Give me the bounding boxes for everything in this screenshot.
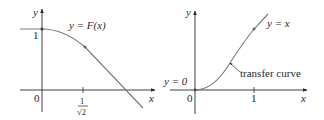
right-point-high <box>253 28 256 31</box>
transfer-curve-pointer <box>230 63 240 72</box>
left-x-tick-fraction: 1 √2 <box>77 96 88 117</box>
right-x-axis-label: x <box>300 92 306 104</box>
right-x-tick-label: 1 <box>251 92 257 104</box>
left-x-axis-label: x <box>148 92 154 104</box>
right-graph: y x 0 1 y = 0 y = x transfer curve <box>163 6 307 114</box>
left-y-tick-label: 1 <box>33 29 39 41</box>
right-y-axis-label: y <box>185 6 191 18</box>
left-y-axis-label: y <box>32 6 38 18</box>
left-graph: y x 0 1 y = F(x) 1 √2 <box>20 6 155 117</box>
left-point-inflection <box>84 46 87 49</box>
fraction-denominator: √2 <box>77 107 86 117</box>
asymptote-low-label: y = 0 <box>163 75 188 87</box>
asymptote-high-label: y = x <box>266 17 290 29</box>
right-point-origin <box>194 89 197 92</box>
right-origin-label: 0 <box>187 92 193 104</box>
fraction-numerator: 1 <box>80 96 84 106</box>
transfer-curve-annotation: transfer curve <box>240 67 301 79</box>
left-origin-label: 0 <box>34 92 40 104</box>
left-curve-label: y = F(x) <box>68 19 106 32</box>
figure: y x 0 1 y = F(x) 1 √2 y x 0 1 y = 0 y = … <box>0 0 324 120</box>
left-point-y-intercept <box>40 27 43 30</box>
